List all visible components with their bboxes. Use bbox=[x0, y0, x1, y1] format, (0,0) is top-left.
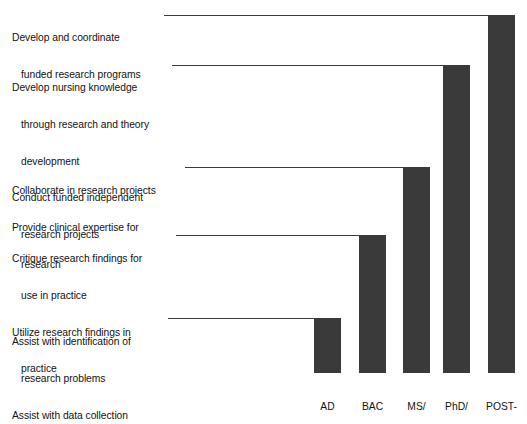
bar-bac bbox=[359, 235, 386, 373]
bar-ms-mn bbox=[403, 167, 430, 373]
annotation-line: Develop nursing knowledge bbox=[12, 82, 172, 94]
bar-post-doc bbox=[488, 15, 515, 373]
annotation-line: research problems bbox=[12, 373, 182, 385]
category-label-post-doc: POST- DOC bbox=[476, 376, 527, 424]
annotation-line: Critique research findings for bbox=[12, 253, 177, 265]
annotation-line: through research and theory bbox=[12, 119, 172, 131]
category-label-ad: AD bbox=[302, 376, 353, 424]
leader-line-level-4 bbox=[172, 65, 443, 66]
category-label-line: PhD/ bbox=[431, 401, 482, 413]
annotation-line: Develop and coordinate bbox=[12, 32, 162, 44]
annotation-line: Assist with data collection bbox=[12, 410, 182, 422]
bar-phd-dns bbox=[443, 65, 470, 373]
leader-line-level-1 bbox=[168, 318, 314, 319]
leader-line-level-2 bbox=[176, 235, 359, 236]
category-label-phd-dns: PhD/ DNS bbox=[431, 376, 482, 424]
annotation-line: Assist with identification of bbox=[12, 336, 182, 348]
leader-line-level-3 bbox=[185, 167, 403, 168]
annotation-level-1: Assist with identification of research p… bbox=[12, 312, 182, 424]
bar-ad bbox=[314, 318, 341, 373]
leader-line-level-5 bbox=[164, 15, 488, 16]
research-competency-chart: Develop and coordinate funded research p… bbox=[0, 0, 527, 424]
category-label-line: POST- bbox=[476, 401, 527, 413]
annotation-line: Collaborate in research projects bbox=[12, 185, 187, 197]
annotation-line: use in practice bbox=[12, 290, 177, 302]
category-label-line: AD bbox=[302, 401, 353, 413]
